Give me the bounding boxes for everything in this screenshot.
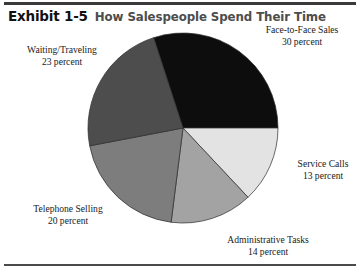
bottom-divider-rule — [4, 264, 356, 266]
callout-face-to-face-sales-name: Face-to-Face Sales — [252, 24, 352, 36]
callout-face-to-face-sales: Face-to-Face Sales 30 percent — [252, 24, 352, 47]
callout-administrative-tasks: Administrative Tasks 14 percent — [210, 234, 326, 257]
pie-slice-group — [88, 33, 278, 223]
callout-telephone-selling-value: 20 percent — [14, 215, 122, 227]
exhibit-figure: Exhibit 1-5How Salespeople Spend Their T… — [0, 0, 360, 276]
callout-waiting-traveling: Waiting/Traveling 23 percent — [8, 44, 116, 67]
callout-waiting-traveling-name: Waiting/Traveling — [8, 44, 116, 56]
exhibit-number: Exhibit 1-5 — [8, 8, 88, 24]
callout-telephone-selling: Telephone Selling 20 percent — [14, 203, 122, 226]
page-title: How Salespeople Spend Their Time — [95, 10, 326, 24]
callout-face-to-face-sales-value: 30 percent — [252, 36, 352, 48]
exhibit-heading: Exhibit 1-5How Salespeople Spend Their T… — [8, 8, 326, 24]
pie-slice — [183, 128, 278, 197]
callout-telephone-selling-name: Telephone Selling — [14, 203, 122, 215]
top-divider-rule — [4, 2, 356, 5]
callout-service-calls-name: Service Calls — [288, 158, 358, 170]
pie-slice — [154, 33, 278, 128]
callout-service-calls: Service Calls 13 percent — [288, 158, 358, 181]
callout-service-calls-value: 13 percent — [288, 170, 358, 182]
callout-administrative-tasks-value: 14 percent — [210, 246, 326, 258]
callout-waiting-traveling-value: 23 percent — [8, 56, 116, 68]
pie-slice — [171, 128, 248, 223]
callout-administrative-tasks-name: Administrative Tasks — [210, 234, 326, 246]
